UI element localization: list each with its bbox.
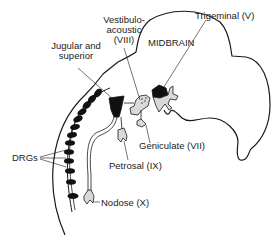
label-vestibulo-line3: (VIII) <box>99 35 149 45</box>
label-jugular-line2: superior <box>46 51 106 61</box>
label-geniculate: Geniculate (VII) <box>139 141 205 151</box>
drg-ganglia <box>64 87 104 199</box>
label-midbrain: MIDBRAIN <box>148 38 194 48</box>
label-petrosal: Petrosal (IX) <box>109 161 162 171</box>
leader-trigeminal <box>162 20 206 90</box>
vagus-nerve-inner <box>90 117 117 195</box>
pharyngeal-outline <box>164 110 170 114</box>
leader-vestibulo-acoustic <box>124 48 140 100</box>
label-nodose: Nodose (X) <box>101 198 149 208</box>
embryo-ganglia-diagram: Vestibulo- acoustic (VIII) Jugular and s… <box>0 0 271 235</box>
geniculate-ganglion <box>137 119 146 127</box>
label-drgs: DRGs <box>12 153 38 163</box>
leader-drg-1 <box>40 150 66 157</box>
jugular-superior-ganglion <box>109 96 124 117</box>
nodose-ganglion <box>84 190 94 204</box>
leader-petrosal <box>124 141 128 160</box>
label-vestibulo-acoustic: Vestibulo- acoustic (VIII) <box>99 15 149 45</box>
label-jugular-superior: Jugular and superior <box>46 41 106 61</box>
vestibulo-acoustic-ganglion <box>130 95 150 115</box>
petrosal-nerve <box>121 117 122 130</box>
label-trigeminal: Trigeminal (V) <box>195 11 254 21</box>
petrosal-ganglion <box>118 128 127 142</box>
